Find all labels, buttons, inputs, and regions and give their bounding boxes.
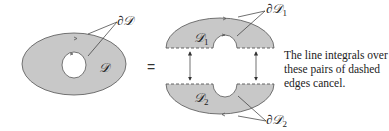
boundary-d2-label: ∂𝒟2: [266, 112, 287, 129]
pointer-line: [238, 116, 266, 121]
region-d2: [166, 84, 274, 116]
region-d: [22, 33, 126, 95]
boundary-d-label: ∂𝒟: [117, 13, 136, 28]
region-d1: [166, 17, 274, 48]
boundary-d1-label: ∂𝒟1: [266, 1, 287, 18]
equals-sign: =: [147, 59, 155, 75]
pointer-line: [238, 11, 265, 17]
pointer-line: [88, 22, 117, 34]
cancellation-note: The line integrals over these pairs of d…: [284, 48, 389, 90]
